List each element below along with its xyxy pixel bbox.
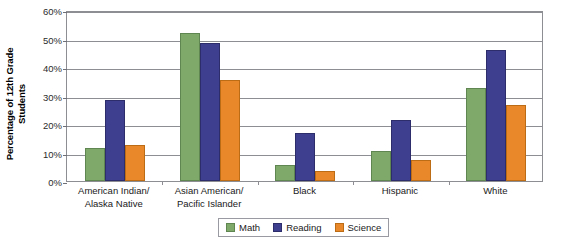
bar-group	[67, 12, 162, 181]
y-axis-tick-label: 30%	[26, 91, 62, 102]
bar-science	[315, 171, 335, 181]
category-label-line: Hispanic	[352, 185, 447, 198]
bar-science	[506, 105, 526, 181]
bar-group	[162, 12, 257, 181]
category-label-line: American Indian/	[66, 185, 161, 198]
plot-area	[66, 11, 543, 182]
x-axis-category-labels: American Indian/Alaska NativeAsian Ameri…	[66, 185, 543, 215]
category-label-line: Alaska Native	[66, 198, 161, 211]
bar-science	[125, 145, 145, 181]
y-axis-title-line-1: Percentage of 12th Grade	[4, 48, 16, 161]
legend-label: Science	[348, 222, 382, 233]
bar-group	[353, 12, 448, 181]
x-axis-category-label: Black	[257, 185, 352, 198]
bar-math	[275, 165, 295, 181]
legend-item-science[interactable]: Science	[335, 222, 382, 233]
legend-item-math[interactable]: Math	[226, 222, 260, 233]
legend-swatch-icon	[226, 223, 235, 232]
legend-label: Reading	[286, 222, 321, 233]
category-label-line: Pacific Islander	[161, 198, 256, 211]
y-axis-tick-label: 40%	[26, 63, 62, 74]
bar-math	[466, 88, 486, 181]
x-axis-category-label: Hispanic	[352, 185, 447, 198]
category-label-line: Black	[257, 185, 352, 198]
legend-swatch-icon	[335, 223, 344, 232]
chart-legend: MathReadingScience	[218, 218, 389, 237]
y-axis-tickmark	[63, 183, 67, 184]
y-axis-tick-label: 10%	[26, 148, 62, 159]
bar-science	[411, 160, 431, 181]
y-axis-tick-label: 50%	[26, 34, 62, 45]
legend-swatch-icon	[273, 223, 282, 232]
bar-group	[449, 12, 544, 181]
category-label-line: White	[448, 185, 543, 198]
bar-math	[85, 148, 105, 181]
bar-group	[258, 12, 353, 181]
y-axis-tick-label: 20%	[26, 120, 62, 131]
x-axis-category-label: White	[448, 185, 543, 198]
bar-reading	[391, 120, 411, 181]
category-label-line: Asian American/	[161, 185, 256, 198]
legend-label: Math	[239, 222, 260, 233]
bar-reading	[486, 50, 506, 181]
y-axis-tick-label: 0%	[26, 177, 62, 188]
y-axis-tick-label: 60%	[26, 6, 62, 17]
bar-chart: Percentage of 12th Grade Students 60%50%…	[0, 0, 565, 247]
bar-reading	[200, 43, 220, 181]
legend-item-reading[interactable]: Reading	[273, 222, 321, 233]
bar-math	[371, 151, 391, 181]
x-axis-category-label: Asian American/Pacific Islander	[161, 185, 256, 210]
bar-math	[180, 33, 200, 181]
x-axis-category-label: American Indian/Alaska Native	[66, 185, 161, 210]
bar-science	[220, 80, 240, 181]
y-axis-tick-labels: 60%50%40%30%20%10%0%	[26, 0, 62, 247]
bar-reading	[105, 100, 125, 181]
bar-reading	[295, 133, 315, 181]
